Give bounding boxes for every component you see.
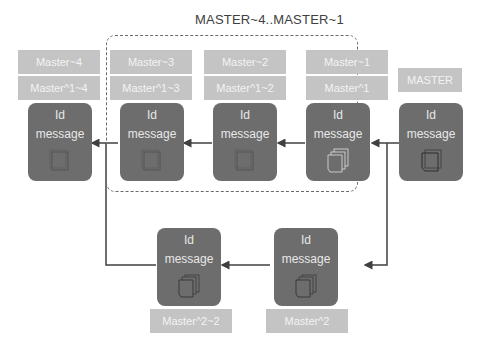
commit-message: message (274, 252, 338, 266)
commit-id: Id (213, 108, 277, 122)
commit-master-head: Id message (399, 103, 463, 181)
commit-message: message (399, 127, 463, 141)
group-title: MASTER~4..MASTER~1 (195, 12, 344, 27)
commit-master-1: Id message (306, 103, 370, 181)
commit-master-2: Id message (213, 103, 277, 181)
commit-id: Id (399, 108, 463, 122)
label-master-1-2: Master^1~2 (204, 76, 286, 100)
label-master-1-4: Master^1~4 (18, 76, 100, 100)
label-master-2-2: Master^2~2 (150, 309, 232, 333)
stacked-files-icon (324, 147, 352, 175)
stacked-files-icon (175, 272, 203, 300)
label-master-caret-2: Master^2 (266, 309, 348, 333)
label-master-3: Master~3 (110, 50, 192, 74)
stacked-files-icon (292, 272, 320, 300)
label-master-1: Master~1 (306, 50, 388, 74)
git-ancestry-diagram: MASTER~4..MASTER~1 Master~4 Master^1~4 M… (0, 0, 484, 344)
commit-master-4: Id message (28, 103, 92, 181)
label-master-4: Master~4 (18, 50, 100, 74)
commit-id: Id (120, 108, 184, 122)
file-icon (231, 147, 259, 175)
commit-message: message (306, 127, 370, 141)
file-icon (46, 147, 74, 175)
commit-id: Id (306, 108, 370, 122)
commit-message: message (28, 127, 92, 141)
label-master-1-3: Master^1~3 (110, 76, 192, 100)
commit-id: Id (28, 108, 92, 122)
commit-id: Id (157, 233, 221, 247)
commit-master-2-2: Id message (157, 228, 221, 306)
commit-message: message (213, 127, 277, 141)
label-master-head: MASTER (398, 68, 462, 92)
label-master-2: Master~2 (204, 50, 286, 74)
commit-message: message (157, 252, 221, 266)
commit-id: Id (274, 233, 338, 247)
file-icon (138, 147, 166, 175)
label-master-caret-1: Master^1 (306, 76, 388, 100)
commit-master-caret-2: Id message (274, 228, 338, 306)
file-icon (417, 147, 445, 175)
commit-master-3: Id message (120, 103, 184, 181)
commit-message: message (120, 127, 184, 141)
